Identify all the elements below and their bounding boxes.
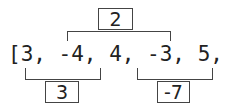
array-text: [3, -4, 4, -3, 5, -9] bbox=[8, 42, 230, 66]
bottom-left-bracket bbox=[25, 68, 101, 80]
bottom-right-bracket bbox=[137, 68, 213, 80]
bottom-right-sum-value: -7 bbox=[164, 81, 183, 103]
top-sum-box: 2 bbox=[98, 8, 133, 30]
bottom-left-sum-value: 3 bbox=[56, 81, 68, 103]
bottom-left-sum-box: 3 bbox=[45, 81, 79, 103]
top-sum-value: 2 bbox=[109, 8, 121, 30]
bottom-right-sum-box: -7 bbox=[157, 81, 190, 103]
top-bracket bbox=[67, 31, 171, 41]
